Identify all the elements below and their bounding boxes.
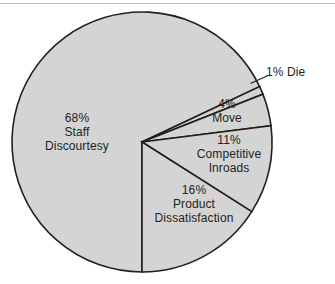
- pie-label-staff-discourtesy-percent: 68%: [18, 112, 136, 126]
- pie-label-move: 4% Move: [198, 98, 256, 126]
- pie-label-product-dissatisfaction-percent: 16%: [142, 184, 246, 198]
- pie-label-competitive-inroads-name-line1: Competitive: [186, 148, 272, 162]
- pie-label-move-name: Move: [198, 112, 256, 126]
- pie-label-competitive-inroads-name-line2: Inroads: [186, 162, 272, 176]
- pie-label-die: 1% Die: [266, 66, 332, 80]
- pie-label-competitive-inroads: 11% Competitive Inroads: [186, 134, 272, 176]
- pie-label-staff-discourtesy: 68% Staff Discourtesy: [18, 112, 136, 154]
- pie-label-product-dissatisfaction-name-line1: Product: [142, 198, 246, 212]
- pie-label-move-percent: 4%: [198, 98, 256, 112]
- pie-label-competitive-inroads-percent: 11%: [186, 134, 272, 148]
- pie-label-staff-discourtesy-name-line2: Discourtesy: [18, 140, 136, 154]
- pie-label-staff-discourtesy-name-line1: Staff: [18, 126, 136, 140]
- pie-chart-figure: 68% Staff Discourtesy 1% Die 4% Move 11%…: [0, 0, 335, 284]
- pie-label-product-dissatisfaction-name-line2: Dissatisfaction: [142, 212, 246, 226]
- pie-label-product-dissatisfaction: 16% Product Dissatisfaction: [142, 184, 246, 226]
- pie-label-die-text: 1% Die: [266, 66, 332, 80]
